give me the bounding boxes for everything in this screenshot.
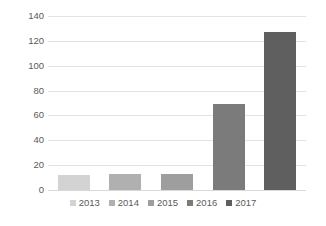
legend-swatch-icon	[226, 200, 232, 206]
gridline	[48, 190, 306, 191]
bars	[48, 16, 306, 190]
chart-legend: 20132014201520162017	[0, 198, 326, 208]
bar-2014	[109, 174, 141, 190]
bar-2015	[161, 174, 193, 190]
legend-label: 2015	[157, 198, 178, 208]
legend-swatch-icon	[70, 200, 76, 206]
legend-item-2013[interactable]: 2013	[70, 198, 100, 208]
y-axis-tick-label: 140	[4, 11, 44, 21]
y-axis-tick-label: 20	[4, 160, 44, 170]
y-axis-tick-label: 0	[4, 185, 44, 195]
legend-item-2014[interactable]: 2014	[109, 198, 139, 208]
legend-swatch-icon	[109, 200, 115, 206]
legend-item-2017[interactable]: 2017	[226, 198, 256, 208]
y-axis-tick-label: 80	[4, 86, 44, 96]
bar-2016	[213, 104, 245, 190]
legend-label: 2014	[118, 198, 139, 208]
legend-label: 2016	[196, 198, 217, 208]
bar-2013	[58, 175, 90, 190]
y-axis-tick-label: 120	[4, 36, 44, 46]
bar-chart: 020406080100120140 20132014201520162017	[0, 0, 326, 226]
legend-label: 2017	[235, 198, 256, 208]
y-axis-tick-label: 60	[4, 111, 44, 121]
y-axis-tick-label: 100	[4, 61, 44, 71]
bar-2017	[264, 32, 296, 190]
legend-swatch-icon	[187, 200, 193, 206]
legend-swatch-icon	[148, 200, 154, 206]
legend-item-2016[interactable]: 2016	[187, 198, 217, 208]
legend-label: 2013	[79, 198, 100, 208]
plot-area	[48, 16, 306, 190]
y-axis-tick-label: 40	[4, 136, 44, 146]
legend-item-2015[interactable]: 2015	[148, 198, 178, 208]
